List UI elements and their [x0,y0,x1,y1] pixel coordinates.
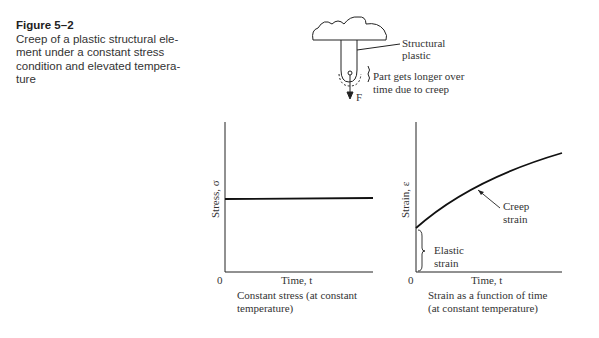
elastic-brace [418,230,425,271]
elastic-label-2: strain [434,257,459,269]
strain-caption-1: Strain as a function of time [428,289,548,301]
cloud-support [313,17,387,40]
plastic-bar [341,40,357,82]
force-arrow-icon [347,92,353,99]
stress-caption-1: Constant stress (at constant [237,289,357,302]
diagram-canvas: Structural plastic Part gets longer over… [0,0,599,338]
strain-origin: 0 [408,274,414,286]
stress-caption-2: temperature) [237,302,294,315]
stress-line [225,198,373,199]
creep-label-1: Creep [503,200,530,212]
label-creep-1: Part gets longer over [373,70,465,82]
stress-xlabel: Time, t [281,274,312,286]
strain-ylabel: Strain, ε [399,181,411,218]
strain-xlabel: Time, t [471,274,502,286]
elastic-label-1: Elastic [434,244,464,256]
force-label: F [356,91,362,103]
stress-origin: 0 [217,274,223,286]
strain-caption-2: (at constant temperature) [428,302,538,315]
pin [348,71,352,75]
stress-plot: Stress, σ 0 Time, t Constant stress (at … [209,122,373,315]
strain-curve [416,153,562,228]
label-plastic: plastic [402,49,431,61]
stress-ylabel: Stress, σ [209,180,221,218]
creep-label-2: strain [503,213,528,225]
strain-plot: Strain, ε 0 Time, t Creep strain Elastic… [399,122,562,315]
label-creep-2: time due to creep [373,83,450,95]
label-structural: Structural [402,37,445,49]
leader-arrow [357,44,400,50]
